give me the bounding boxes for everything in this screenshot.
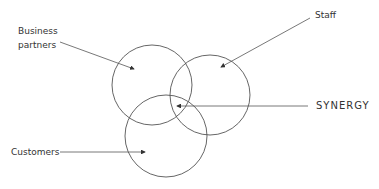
label-staff: Staff bbox=[315, 8, 336, 22]
circle-staff bbox=[170, 55, 250, 135]
label-customers: Customers bbox=[11, 145, 59, 159]
circle-customers bbox=[125, 95, 207, 177]
circle-business-partners bbox=[112, 45, 192, 125]
label-business: Business bbox=[18, 24, 58, 38]
arrow-business-partners bbox=[60, 42, 134, 69]
label-synergy: SYNERGY bbox=[316, 99, 370, 113]
arrow-staff bbox=[221, 18, 310, 67]
label-partners: partners bbox=[18, 38, 56, 52]
